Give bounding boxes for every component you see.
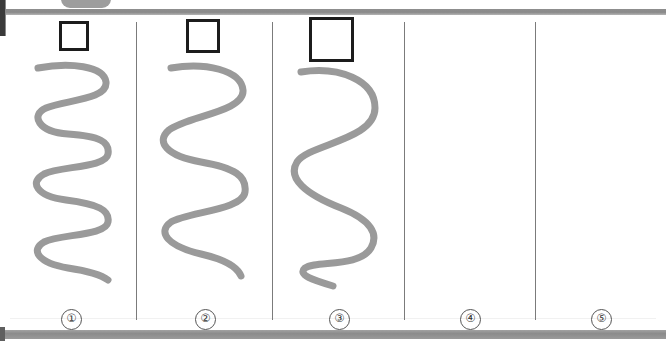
answer-box-3[interactable] xyxy=(309,17,354,62)
wave-curve-1 xyxy=(24,60,124,290)
column-3[interactable]: ③ xyxy=(273,16,404,328)
option-number-5: ⑤ xyxy=(591,309,612,330)
answer-box-2[interactable] xyxy=(186,19,220,53)
option-number-4: ④ xyxy=(460,309,481,330)
column-4[interactable]: ④ xyxy=(405,16,535,328)
column-2[interactable]: ② xyxy=(137,16,272,328)
option-number-1: ① xyxy=(61,309,82,330)
wave-curve-2 xyxy=(153,60,258,290)
page-canvas: ① ② ③ ④ ⑤ xyxy=(0,0,666,344)
answer-box-1[interactable] xyxy=(59,21,89,51)
wave-curve-3 xyxy=(283,66,388,292)
option-number-3: ③ xyxy=(329,309,350,330)
top-divider-bar xyxy=(0,9,666,15)
bottom-left-marker xyxy=(0,327,5,341)
tab-nub xyxy=(61,0,111,8)
column-1[interactable]: ① xyxy=(6,16,136,328)
bottom-divider-bar xyxy=(0,330,666,339)
option-number-2: ② xyxy=(195,309,216,330)
column-5[interactable]: ⑤ xyxy=(536,16,666,328)
column-grid: ① ② ③ ④ ⑤ xyxy=(0,16,666,328)
